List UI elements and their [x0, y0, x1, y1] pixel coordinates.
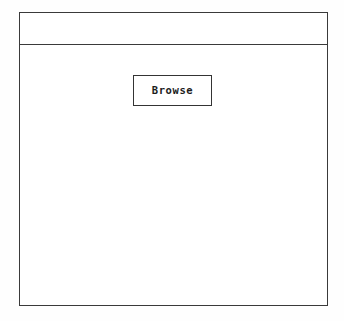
page-canvas: Browse [0, 0, 344, 321]
window-content-area: Browse [20, 45, 327, 305]
window-title-bar [20, 13, 327, 45]
browse-button[interactable]: Browse [133, 75, 212, 106]
browse-button-label: Browse [152, 85, 194, 96]
application-window: Browse [19, 12, 328, 306]
